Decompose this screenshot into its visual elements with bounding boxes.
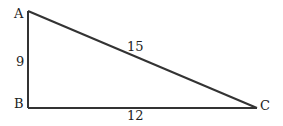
triangle-canvas: A B C 9 15 12 — [0, 0, 283, 126]
vertex-label-a: A — [13, 6, 24, 21]
triangle-diagram: A B C 9 15 12 — [0, 0, 283, 126]
side-label-bc: 12 — [127, 108, 144, 123]
side-label-ab: 9 — [16, 54, 24, 69]
side-ac — [28, 11, 257, 108]
side-label-ac: 15 — [127, 39, 144, 54]
vertex-label-b: B — [14, 96, 24, 111]
vertex-label-c: C — [260, 98, 270, 113]
